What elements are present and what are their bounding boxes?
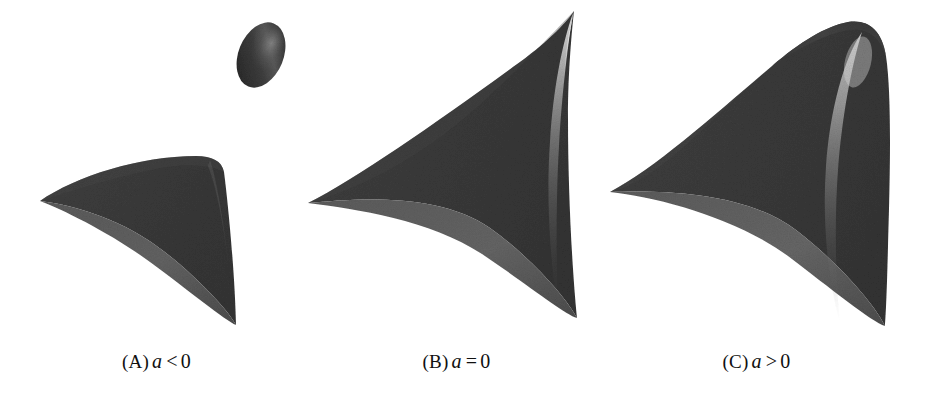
panel-c-label: (C) <box>723 351 749 372</box>
panel-b-value: 0 <box>480 350 490 372</box>
panel-a-operator: < <box>166 350 177 372</box>
panel-c-plot <box>600 0 913 345</box>
ellipsoid-shape <box>227 15 294 95</box>
panel-b-caption: (B)a=0 <box>300 348 613 375</box>
figure-container: (A)a<0 <box>0 0 940 398</box>
panel-b-plot <box>300 0 613 345</box>
panel-b-operator: = <box>466 350 477 372</box>
panel-c-expression: a>0 <box>752 350 791 372</box>
hyperboloid-lower-sheet-shape <box>40 156 236 325</box>
panel-c: (C)a>0 <box>600 0 913 398</box>
panel-b: (B)a=0 <box>300 0 613 398</box>
panel-a-label: (A) <box>122 351 149 372</box>
panel-a-expression: a<0 <box>152 350 191 372</box>
panel-b-variable: a <box>452 350 462 372</box>
panel-a-caption: (A)a<0 <box>0 348 313 375</box>
panel-b-expression: a=0 <box>452 350 491 372</box>
panel-a-plot <box>0 0 313 345</box>
hyperboloid-surface-shape <box>610 22 890 326</box>
panel-c-caption: (C)a>0 <box>600 348 913 375</box>
panel-a: (A)a<0 <box>0 0 313 398</box>
panel-a-value: 0 <box>181 350 191 372</box>
panel-c-value: 0 <box>780 350 790 372</box>
panel-a-variable: a <box>152 350 162 372</box>
panel-c-operator: > <box>766 350 777 372</box>
panel-b-label: (B) <box>423 351 449 372</box>
cone-surface-shape <box>308 11 577 318</box>
panel-c-variable: a <box>752 350 762 372</box>
